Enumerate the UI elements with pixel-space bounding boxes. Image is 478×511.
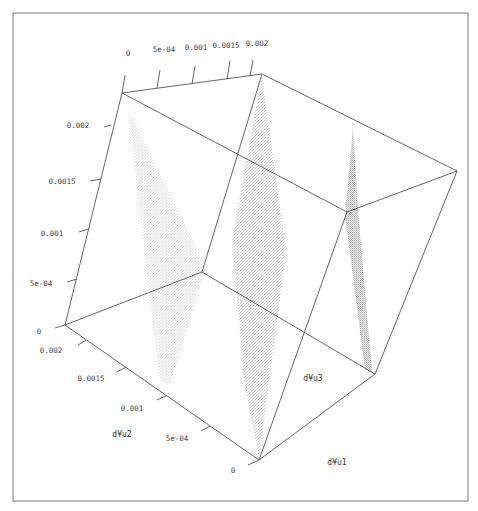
- left-axis-ticks: [55, 125, 111, 328]
- scatter-sheet-left: [128, 108, 206, 385]
- axis-title-y: d¥u2: [112, 430, 131, 439]
- tick-label: 5e-04: [153, 45, 176, 54]
- tick-label: 0: [231, 466, 236, 475]
- top-axis-ticks: [122, 60, 253, 93]
- scatter3d-plot: 0 5e-04 0.001 0.0015 0.002 0.002 0.0015 …: [0, 0, 478, 511]
- tick-label: 0.0015: [48, 177, 75, 186]
- point-clouds: [128, 76, 372, 458]
- tick-label: 0.0015: [212, 41, 239, 50]
- tick-label: 0.0015: [77, 374, 104, 383]
- top-axis-labels: 0 5e-04 0.001 0.0015 0.002: [126, 39, 269, 58]
- scatter-sheet-right: [345, 127, 372, 372]
- tick-label: 5e-04: [30, 279, 53, 288]
- tick-label: 0.002: [40, 346, 63, 355]
- tick-label: 0.001: [121, 404, 144, 413]
- tick-label: 0: [126, 49, 131, 58]
- tick-label: 0.001: [185, 43, 208, 52]
- left-axis-labels: 0.002 0.0015 0.001 5e-04 0: [30, 121, 90, 336]
- tick-label: 0: [37, 327, 42, 336]
- front-axis-labels: 0.002 0.0015 0.001 5e-04 0: [40, 346, 236, 475]
- tick-label: 0.001: [41, 229, 64, 238]
- axis-title-z: d¥u3: [303, 374, 322, 383]
- scatter-sheet-center: [232, 76, 286, 458]
- tick-label: 5e-04: [166, 434, 189, 443]
- tick-label: 0.002: [67, 121, 90, 130]
- axis-title-x: d¥u1: [327, 458, 346, 467]
- tick-label: 0.002: [246, 39, 269, 48]
